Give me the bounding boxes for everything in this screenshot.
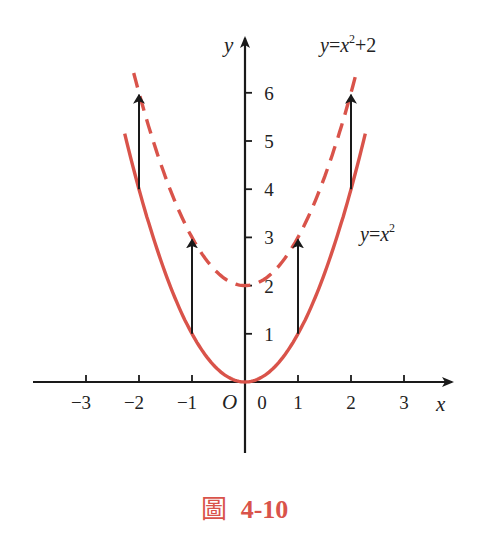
y-tick-label: 2 bbox=[264, 276, 274, 297]
x-tick-label: −1 bbox=[177, 392, 197, 413]
x-tick-label: 0 bbox=[257, 392, 267, 413]
axes bbox=[33, 38, 452, 453]
y-tick-label: 6 bbox=[264, 83, 274, 104]
x-tick-label: 3 bbox=[399, 392, 409, 413]
x-tick-label: 1 bbox=[293, 392, 303, 413]
y-tick-label: 5 bbox=[264, 131, 274, 152]
x-tick-label: 2 bbox=[346, 392, 356, 413]
y-tick-label: 4 bbox=[264, 179, 274, 200]
figure-caption: 圖4-10 bbox=[0, 488, 489, 525]
y-tick-label: 1 bbox=[264, 324, 274, 345]
y-tick-label: 3 bbox=[264, 227, 274, 248]
label-y-eq-x-squared: y=x2 bbox=[358, 221, 395, 246]
caption-number: 4-10 bbox=[241, 495, 289, 524]
x-axis-label: x bbox=[435, 392, 446, 416]
origin-label: O bbox=[222, 390, 237, 414]
label-y-eq-x-squared-plus-2: y=x2+2 bbox=[318, 32, 376, 57]
x-tick-label: −3 bbox=[71, 392, 91, 413]
x-tick-label: −2 bbox=[124, 392, 144, 413]
function-graph: −3−2−10123123456xyOy=x2+2y=x2 bbox=[0, 0, 489, 549]
labels: −3−2−10123123456xyOy=x2+2y=x2 bbox=[71, 32, 446, 416]
caption-prefix: 圖 bbox=[201, 494, 227, 524]
y-axis-label: y bbox=[222, 33, 234, 57]
